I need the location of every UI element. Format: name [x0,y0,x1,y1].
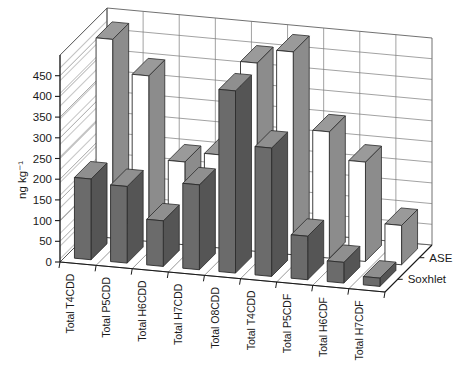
legend-item-ase: ASE [429,252,452,264]
y-tick-label: 300 [33,132,52,144]
bar-soxhlet-5 [255,131,288,277]
y-tick-label: 450 [33,70,52,82]
bar-soxhlet-1 [111,169,144,263]
x-tick-label: Total T4CDD [64,273,76,333]
bar-soxhlet-4 [219,73,252,273]
x-tick-label: Total P5CDF [281,294,293,354]
y-tick-label: 350 [33,111,52,123]
x-tick-label: Total H6CDF [317,297,329,357]
y-tick-label: 0 [46,256,52,268]
y-tick-label: 250 [33,153,52,165]
legend-item-soxhlet: Soxhlet [408,273,447,285]
x-tick-label: Total T4CDD [245,290,257,350]
y-tick-label: 200 [33,173,52,185]
y-axis-label: ng kg⁻¹ [16,161,28,199]
bar-chart-3d: 050100150200250300350400450ng kg⁻¹Total … [0,0,474,366]
y-tick-label: 50 [39,235,52,247]
y-axis: 050100150200250300350400450ng kg⁻¹ [16,55,60,268]
y-tick-label: 400 [33,90,52,102]
x-tick-label: Total O8CDD [209,287,221,349]
x-tick-label: Total P5CDD [100,277,112,338]
y-tick-label: 150 [33,194,52,206]
bar-soxhlet-0 [74,161,107,259]
x-tick-label: Total H7CDF [353,300,365,360]
chart-container: 050100150200250300350400450ng kg⁻¹Total … [0,0,474,366]
bar-ase-7 [349,145,382,262]
bar-soxhlet-3 [183,167,216,269]
y-tick-label: 100 [33,215,52,227]
x-tick-label: Total H7CDD [172,283,184,345]
x-tick-label: Total H6CDD [136,280,148,342]
